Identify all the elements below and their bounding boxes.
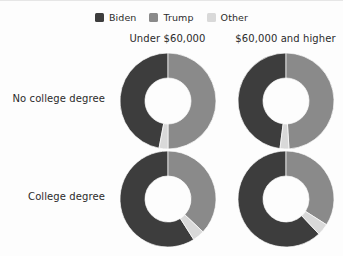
donut-chart-college-under-60000 xyxy=(118,149,218,249)
donut-slice-biden xyxy=(238,53,286,149)
legend-swatch-trump xyxy=(149,13,158,22)
donut-slice-trump xyxy=(168,151,216,232)
column-header-under-60000: Under $60,000 xyxy=(110,33,225,44)
column-header-60000-and-higher: $60,000 and higher xyxy=(228,33,343,44)
donut-slice-trump xyxy=(168,53,216,149)
legend-label-other: Other xyxy=(221,13,248,23)
donut-chart-no-college-under-60000 xyxy=(118,51,218,151)
donut-slice-trump xyxy=(286,151,334,225)
donut-chart-no-college-60000-higher xyxy=(236,51,336,151)
legend-item-other: Other xyxy=(207,13,248,23)
column-headers: Under $60,000 $60,000 and higher xyxy=(110,33,343,49)
donut-slice-biden xyxy=(120,53,168,148)
donut-grid xyxy=(110,49,343,256)
donut-slice-trump xyxy=(286,53,334,149)
chart-legend: Biden Trump Other xyxy=(0,13,343,23)
legend-item-biden: Biden xyxy=(95,13,137,23)
legend-swatch-other xyxy=(207,13,216,22)
legend-label-biden: Biden xyxy=(109,13,137,23)
row-label-college-degree: College degree xyxy=(28,191,105,202)
legend-item-trump: Trump xyxy=(149,13,193,23)
row-label-no-college-degree: No college degree xyxy=(12,93,105,104)
chart-figure: Biden Trump Other Under $60,000 $60,000 … xyxy=(0,0,343,256)
legend-swatch-biden xyxy=(95,13,104,22)
legend-label-trump: Trump xyxy=(163,13,193,23)
donut-chart-college-60000-higher xyxy=(236,149,336,249)
